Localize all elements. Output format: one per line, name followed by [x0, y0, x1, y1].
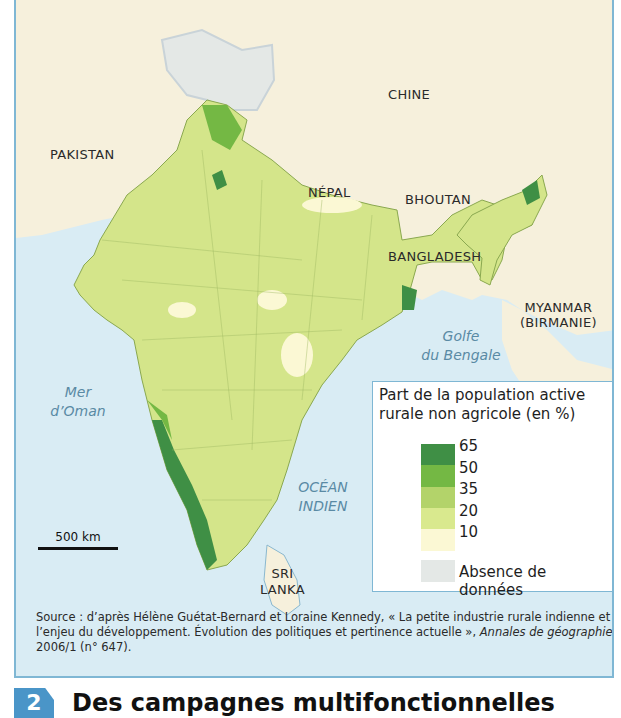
legend: Part de la population active rurale non …: [372, 381, 614, 592]
region-pale-2: [257, 290, 287, 310]
legend-tick-20: 20: [459, 503, 478, 519]
legend-swatch-no-data: [421, 560, 455, 582]
label-myanmar: MYANMAR (BIRMANIE): [520, 300, 597, 330]
label-nepal: NÉPAL: [308, 185, 351, 200]
legend-title: Part de la population active rurale non …: [379, 386, 614, 424]
label-ocean-line2: INDIEN: [299, 498, 348, 514]
label-bangladesh: BANGLADESH: [388, 249, 481, 264]
source-suffix: 2006/1 (n° 647).: [36, 640, 131, 654]
label-bhoutan: BHOUTAN: [405, 192, 471, 207]
label-srilanka-line1: SRI: [271, 566, 293, 581]
legend-tick-10: 10: [459, 524, 478, 540]
source-citation: Source : d’après Hélène Guétat-Bernard e…: [36, 610, 614, 655]
legend-swatch-0-10: [421, 529, 455, 551]
legend-no-data-label: Absence de données: [459, 563, 614, 599]
legend-tick-35: 35: [459, 481, 478, 497]
section-title: Des campagnes multifonctionnelles: [72, 688, 555, 718]
label-myanmar-line1: MYANMAR: [524, 300, 592, 315]
label-myanmar-line2: (BIRMANIE): [520, 315, 597, 330]
map-frame: PAKISTAN CHINE NÉPAL BHOUTAN BANGLADESH …: [14, 0, 614, 678]
label-golfe-line2: du Bengale: [421, 347, 500, 363]
legend-swatch-10-20: [421, 508, 455, 529]
label-mer-oman: Mer d’Oman: [48, 383, 108, 421]
label-ocean-line1: OCÉAN: [298, 479, 348, 495]
section-heading: 2 Des campagnes multifonctionnelles: [14, 688, 555, 718]
legend-tick-65: 65: [459, 438, 478, 454]
label-ocean-indien: OCÉAN INDIEN: [288, 478, 358, 516]
legend-swatch-20-35: [421, 487, 455, 508]
label-pakistan: PAKISTAN: [50, 147, 114, 162]
source-journal: Annales de géographie: [480, 625, 613, 639]
legend-swatch-35-50: [421, 465, 455, 487]
scale-bar: 500 km: [38, 530, 118, 550]
label-srilanka-line2: LANKA: [260, 582, 305, 597]
label-chine: CHINE: [388, 87, 430, 102]
scale-label: 500 km: [38, 530, 118, 544]
label-mer-oman-line1: Mer: [65, 384, 91, 400]
region-pale-3: [168, 302, 196, 318]
label-golfe-line1: Golfe: [443, 328, 480, 344]
label-golfe-bengale: Golfe du Bengale: [416, 327, 506, 365]
legend-swatch-50-65: [421, 444, 455, 465]
scale-line: [38, 547, 118, 550]
label-srilanka: SRI LANKA: [260, 566, 305, 598]
legend-tick-50: 50: [459, 460, 478, 476]
label-mer-oman-line2: d’Oman: [50, 403, 105, 419]
section-number: 2: [14, 688, 54, 718]
